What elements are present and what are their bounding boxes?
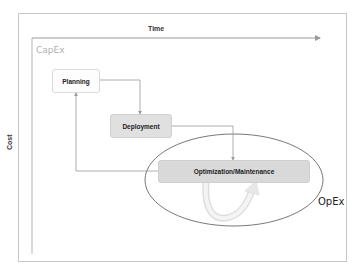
loop-arrow-icon — [206, 181, 259, 218]
edge-planning-to-deployment — [100, 80, 140, 114]
opex-label: OpEx — [318, 196, 344, 207]
planning-node-label: Planning — [62, 78, 89, 85]
time-axis-label: Time — [148, 25, 164, 32]
optimization-maintenance-node: Optimization/Maintenance — [158, 160, 310, 183]
deployment-node-label: Deployment — [122, 123, 159, 130]
planning-node: Planning — [52, 69, 100, 93]
optimization-maintenance-node-label: Optimization/Maintenance — [194, 168, 275, 175]
cost-axis-label: Cost — [6, 134, 13, 150]
connector-layer — [0, 0, 364, 271]
deployment-node: Deployment — [110, 114, 172, 138]
capex-label: CapEx — [36, 45, 65, 55]
